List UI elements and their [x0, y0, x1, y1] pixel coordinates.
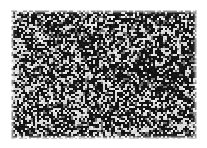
page-canvas [0, 0, 207, 148]
speckle-grain-canvas [11, 10, 197, 139]
speckle-field [11, 10, 197, 139]
